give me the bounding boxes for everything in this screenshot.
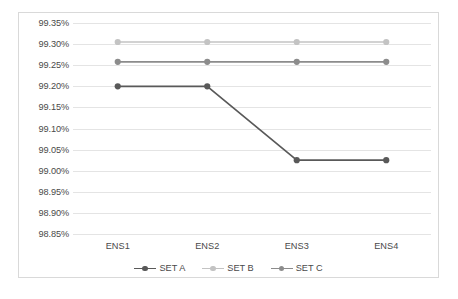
chart-legend: SET ASET BSET C (19, 263, 438, 273)
data-point (294, 59, 300, 65)
y-tick-label: 99.35% (21, 18, 69, 28)
y-tick-label: 99.10% (21, 124, 69, 134)
series-set-b (115, 39, 390, 45)
data-point (204, 83, 210, 89)
legend-marker-icon (271, 264, 293, 273)
data-point (115, 83, 121, 89)
x-tick-label: ENS2 (195, 241, 219, 251)
data-point (204, 59, 210, 65)
y-tick-label: 99.30% (21, 39, 69, 49)
legend-marker-icon (134, 264, 156, 273)
y-tick-label: 99.05% (21, 145, 69, 155)
y-tick-label: 99.00% (21, 166, 69, 176)
legend-marker-icon (202, 264, 224, 273)
data-point (294, 39, 300, 45)
data-point (383, 157, 389, 163)
y-tick-label: 99.15% (21, 102, 69, 112)
data-point (383, 59, 389, 65)
x-tick-label: ENS4 (374, 241, 398, 251)
data-point (383, 39, 389, 45)
y-tick-label: 98.90% (21, 208, 69, 218)
gridline (73, 234, 431, 235)
data-point (115, 39, 121, 45)
legend-entry[interactable]: SET B (202, 263, 253, 273)
x-tick-label: ENS3 (285, 241, 309, 251)
x-axis-tick-labels: ENS1ENS2ENS3ENS4 (73, 241, 431, 255)
data-point (115, 59, 121, 65)
y-tick-label: 99.25% (21, 60, 69, 70)
series-layer (73, 23, 431, 234)
y-tick-label: 98.85% (21, 229, 69, 239)
y-tick-label: 99.20% (21, 81, 69, 91)
plot-area (73, 23, 431, 234)
chart-frame: 99.35%99.30%99.25%99.20%99.15%99.10%99.0… (18, 12, 439, 278)
series-line (118, 86, 387, 160)
legend-label: SET B (227, 263, 253, 273)
x-tick-label: ENS1 (106, 241, 130, 251)
legend-label: SET A (159, 263, 185, 273)
legend-entry[interactable]: SET C (271, 263, 323, 273)
legend-label: SET C (296, 263, 323, 273)
y-axis-tick-labels: 99.35%99.30%99.25%99.20%99.15%99.10%99.0… (19, 23, 69, 234)
y-tick-label: 98.95% (21, 187, 69, 197)
series-set-a (115, 83, 390, 163)
legend-entry[interactable]: SET A (134, 263, 185, 273)
series-set-c (115, 59, 390, 65)
data-point (294, 157, 300, 163)
data-point (204, 39, 210, 45)
